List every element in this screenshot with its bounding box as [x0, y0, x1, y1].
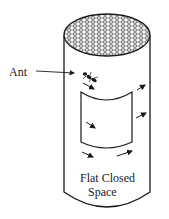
ant-cylinder-diagram: Ant Flat Closed Space: [0, 0, 169, 219]
ant-label: Ant: [9, 65, 28, 79]
cylinder-top-hatched: [64, 14, 150, 56]
ant-icon: [83, 72, 98, 83]
space-label-line2: Space: [88, 185, 117, 199]
arrow-icon: [82, 152, 93, 157]
arrow-icon: [83, 83, 94, 89]
arrow-icon: [86, 122, 95, 128]
ant-pointer-arrow: [36, 71, 74, 73]
space-label-line1: Flat Closed: [80, 171, 135, 185]
arrow-icon: [136, 113, 146, 118]
arrow-icon: [137, 85, 145, 90]
arrow-icon: [117, 151, 132, 156]
flat-closed-space-panel: [81, 92, 132, 148]
